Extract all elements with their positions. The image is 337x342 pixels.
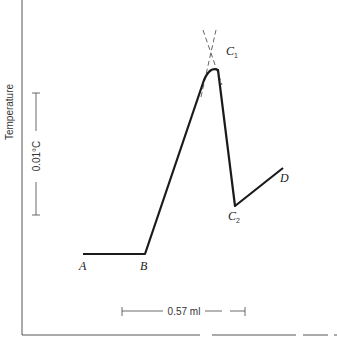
svg-text:1: 1	[234, 52, 238, 59]
y-scale-bar-label: 0.01°C	[31, 141, 42, 172]
titration-curve	[83, 69, 283, 254]
point-label-a: A	[78, 259, 87, 273]
y-axis-label: Temperature	[4, 83, 15, 140]
svg-text:2: 2	[236, 217, 240, 224]
titration-chart: Temperature 0.01°C 0.57 ml A B C 1 C 2 D	[0, 0, 337, 342]
point-label-b: B	[140, 259, 148, 273]
x-scale-bar-label: 0.57 ml	[168, 306, 201, 317]
extrapolation-rising	[201, 30, 216, 97]
point-label-d: D	[279, 171, 289, 185]
point-label-c1: C 1	[226, 44, 238, 59]
extrapolation-lines	[201, 30, 222, 97]
point-label-c2: C 2	[228, 209, 240, 224]
